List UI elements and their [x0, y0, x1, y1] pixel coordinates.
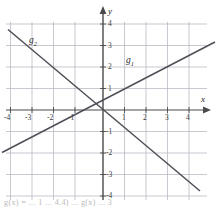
curve-label-g1-subscript: 1 [131, 60, 134, 67]
y-tick-label-1: 1 [108, 85, 112, 93]
coordinate-plot [0, 0, 217, 214]
curve-label-g2-subscript: 2 [34, 40, 37, 47]
x-tick-label-neg4: -4 [4, 114, 10, 122]
x-tick-label-neg2: -2 [47, 114, 53, 122]
x-tick-label-2: 2 [143, 114, 147, 122]
x-tick-label-1: 1 [122, 114, 126, 122]
x-tick-label-neg3: -3 [25, 114, 31, 122]
curve-label-g1: g1 [126, 56, 134, 67]
y-axis-label: y [108, 7, 112, 16]
vertical-gridlines [11, 22, 190, 200]
cropped-caption-text: g(x) = ... 1 ... 4.4) ... g(x) ... 3 [0, 198, 217, 214]
y-tick-label-2: 2 [108, 63, 112, 71]
graph-figure: -4 -3 -2 -1 1 2 3 4 4 3 2 1 -1 -2 -3 -4 … [0, 0, 217, 214]
x-tick-label-4: 4 [186, 114, 190, 122]
y-tick-label-3: 3 [108, 42, 112, 50]
curve-label-g2: g2 [29, 36, 37, 47]
y-tick-label-neg2: -2 [106, 149, 112, 157]
x-tick-label-3: 3 [165, 114, 169, 122]
y-tick-label-4: 4 [108, 20, 112, 28]
x-axis [6, 106, 211, 113]
x-tick-label-neg1: -1 [68, 114, 74, 122]
y-tick-label-neg1: -1 [106, 128, 112, 136]
x-axis-label: x [201, 95, 205, 104]
y-tick-label-neg3: -3 [106, 171, 112, 179]
